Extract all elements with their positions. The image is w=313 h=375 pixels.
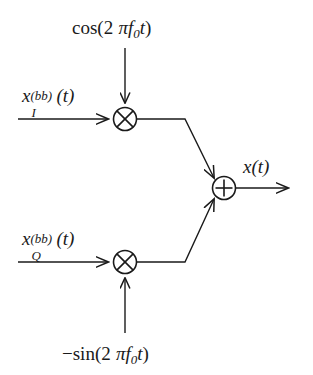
cosine-carrier-label: cos(2 πf0t) — [72, 18, 151, 40]
cosine-suffix: ) — [145, 17, 151, 38]
i-label-subscript: I — [31, 106, 35, 119]
sine-suffix: ) — [143, 343, 149, 364]
q-path-to-summer — [137, 199, 214, 262]
sine-prefix: sin(2 — [73, 343, 111, 364]
sine-minus: − — [62, 343, 73, 364]
cosine-prefix: cos(2 — [72, 17, 113, 38]
i-path-to-summer — [137, 119, 214, 178]
q-label-superscript: (bb) — [30, 232, 52, 245]
i-label-superscript: (bb) — [30, 89, 52, 102]
output-label: x(t) — [243, 157, 269, 176]
i-label-base: x — [22, 85, 30, 106]
block-diagram-canvas: cos(2 πf0t) −sin(2 πf0t) x(bb)I(t) x(bb)… — [0, 0, 313, 375]
q-label-base: x — [22, 228, 30, 249]
i-channel-input-label: x(bb)I(t) — [22, 86, 74, 105]
cosine-pi: π — [118, 17, 128, 38]
sine-carrier-label: −sin(2 πf0t) — [62, 344, 149, 366]
output-argument: (t) — [251, 156, 269, 177]
i-label-argument: (t) — [56, 85, 74, 106]
diagram-vector-layer — [0, 0, 313, 375]
q-label-subscript: Q — [31, 249, 40, 262]
sine-pi: π — [116, 343, 126, 364]
q-label-argument: (t) — [56, 228, 74, 249]
q-channel-input-label: x(bb)Q(t) — [22, 229, 74, 248]
